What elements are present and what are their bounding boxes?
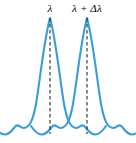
figure-canvas	[0, 0, 136, 143]
peak-label-lambda-plus-delta-lambda: λ + Δλ	[72, 3, 102, 14]
dashed-line-group	[50, 18, 87, 134]
spectral-lines-figure: λ λ + Δλ	[0, 0, 136, 143]
curve-group	[0, 18, 136, 135]
peak-label-lambda: λ	[48, 3, 53, 14]
